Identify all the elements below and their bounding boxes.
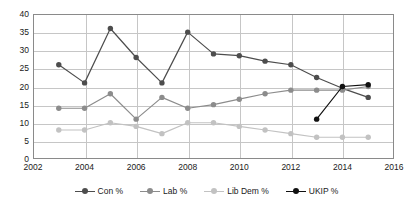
x-axis-tick-label: 2002: [24, 163, 43, 172]
series-layer: [33, 14, 394, 159]
data-point: [185, 29, 190, 34]
data-point: [262, 127, 267, 132]
data-point: [237, 53, 242, 58]
data-point: [56, 127, 61, 132]
data-point: [314, 87, 319, 92]
legend-swatch-icon: [140, 187, 160, 196]
data-point: [108, 91, 113, 96]
data-point: [159, 131, 164, 136]
data-point: [159, 95, 164, 100]
data-point: [133, 55, 138, 60]
data-point: [159, 80, 164, 85]
series-line: [59, 29, 368, 98]
legend-label: Con %: [98, 187, 124, 196]
legend-swatch-icon: [286, 187, 306, 196]
y-axis-tick-label: 5: [24, 137, 29, 146]
y-axis-tick-label: 15: [20, 100, 29, 109]
legend-label: UKIP %: [309, 187, 339, 196]
y-axis-tick-label: 25: [20, 64, 29, 73]
data-point: [262, 91, 267, 96]
line-chart: 0510152025303540 20022004200620082010201…: [0, 0, 413, 207]
data-point: [366, 82, 371, 87]
data-point: [237, 96, 242, 101]
data-point: [82, 127, 87, 132]
x-axis-tick-label: 2008: [178, 163, 197, 172]
x-axis-tick-label: 2012: [281, 163, 300, 172]
x-axis: 20022004200620082010201220142016: [33, 163, 394, 175]
y-axis-tick-label: 20: [20, 82, 29, 91]
data-point: [211, 102, 216, 107]
x-axis-tick-label: 2010: [230, 163, 249, 172]
chart-legend: Con %Lab %Lib Dem %UKIP %: [0, 183, 413, 199]
data-point: [340, 84, 345, 89]
data-point: [314, 116, 319, 121]
data-point: [56, 62, 61, 67]
data-point: [211, 51, 216, 56]
data-point: [262, 58, 267, 63]
data-point: [237, 124, 242, 129]
data-point: [82, 106, 87, 111]
data-point: [288, 131, 293, 136]
y-axis-tick-label: 10: [20, 119, 29, 128]
data-point: [133, 124, 138, 129]
data-point: [314, 135, 319, 140]
series-ukip: [314, 82, 371, 122]
data-point: [288, 87, 293, 92]
y-axis-tick-label: 40: [20, 10, 29, 19]
data-point: [314, 75, 319, 80]
data-point: [211, 120, 216, 125]
legend-item-lib-dem[interactable]: Lib Dem %: [204, 187, 269, 196]
y-axis: 0510152025303540: [0, 14, 29, 160]
data-point: [185, 120, 190, 125]
legend-item-lab[interactable]: Lab %: [140, 187, 187, 196]
series-con: [56, 26, 371, 100]
data-point: [366, 135, 371, 140]
x-axis-tick-label: 2004: [75, 163, 94, 172]
legend-swatch-icon: [204, 187, 224, 196]
series-lib-dem: [56, 120, 371, 140]
x-axis-tick-label: 2006: [127, 163, 146, 172]
data-point: [133, 116, 138, 121]
data-point: [366, 95, 371, 100]
data-point: [56, 106, 61, 111]
series-lab: [56, 84, 371, 122]
data-point: [108, 26, 113, 31]
legend-swatch-icon: [75, 187, 95, 196]
x-axis-tick-label: 2014: [333, 163, 352, 172]
y-axis-tick-label: 30: [20, 46, 29, 55]
data-point: [82, 80, 87, 85]
data-point: [288, 62, 293, 67]
y-axis-tick-label: 35: [20, 28, 29, 37]
legend-label: Lab %: [163, 187, 187, 196]
legend-item-con[interactable]: Con %: [75, 187, 124, 196]
x-axis-tick-label: 2016: [385, 163, 404, 172]
legend-label: Lib Dem %: [227, 187, 269, 196]
data-point: [108, 120, 113, 125]
data-point: [340, 135, 345, 140]
data-point: [185, 106, 190, 111]
legend-item-ukip[interactable]: UKIP %: [286, 187, 339, 196]
